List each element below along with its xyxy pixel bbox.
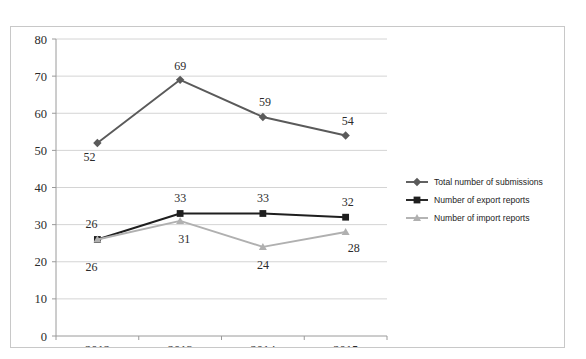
y-axis-tick-label: 80 (35, 33, 48, 47)
y-axis-tick-labels: 01020304050607080 (35, 33, 48, 344)
data-point-label: 24 (257, 258, 269, 272)
data-point-label: 26 (85, 260, 97, 274)
data-point-marker (342, 228, 350, 235)
gridlines (56, 39, 387, 299)
clipped-text-strip (0, 0, 586, 8)
chart-frame: 01020304050607080 2012201320142015 52695… (10, 26, 565, 348)
data-point-marker (414, 197, 421, 204)
x-axis-tick-labels: 2012201320142015 (85, 343, 358, 347)
data-point-label: 31 (178, 232, 190, 246)
data-point-marker (259, 210, 266, 217)
data-point-label: 54 (342, 114, 354, 128)
data-point-label: 26 (85, 217, 97, 231)
legend-label: Total number of submissions (434, 177, 543, 187)
y-axis-tick-label: 20 (35, 255, 48, 269)
data-point-marker (341, 131, 349, 139)
data-point-marker (413, 178, 421, 186)
series-layer (93, 76, 350, 250)
y-axis-tick-label: 40 (35, 181, 48, 195)
legend-label: Number of export reports (434, 195, 530, 205)
data-point-marker (176, 217, 184, 224)
chart-legend: Total number of submissionsNumber of exp… (406, 177, 543, 223)
y-axis-tick-label: 30 (35, 218, 48, 232)
data-label-layer: 526959542633333226312428 (83, 59, 359, 275)
x-axis-tick-label: 2015 (333, 343, 358, 347)
y-axis-tick-label: 0 (41, 330, 47, 344)
data-point-label: 28 (348, 241, 360, 255)
legend-label: Number of import reports (434, 213, 530, 223)
y-axis-tick-label: 10 (35, 292, 48, 306)
data-point-label: 69 (174, 59, 186, 73)
data-point-label: 33 (257, 191, 269, 205)
y-axis-tick-label: 70 (35, 70, 48, 84)
x-axis-tick-label: 2012 (85, 343, 110, 347)
line-chart: 01020304050607080 2012201320142015 52695… (11, 27, 564, 347)
x-axis-tick-label: 2014 (250, 343, 276, 347)
series-line (97, 213, 345, 239)
data-point-label: 59 (259, 95, 271, 109)
data-point-marker (342, 214, 349, 221)
data-point-label: 33 (174, 191, 186, 205)
data-point-label: 32 (342, 195, 354, 209)
data-point-marker (177, 210, 184, 217)
series-line (97, 80, 345, 143)
x-axis-tick-label: 2013 (168, 343, 193, 347)
y-axis-tick-label: 60 (35, 107, 48, 121)
data-point-marker (259, 113, 267, 121)
axes (52, 39, 387, 340)
data-point-label: 52 (83, 150, 95, 164)
y-axis-tick-label: 50 (35, 144, 48, 158)
